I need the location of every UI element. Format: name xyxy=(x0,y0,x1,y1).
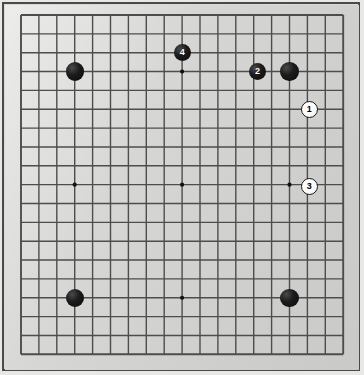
black-stone-move-4[interactable]: 4 xyxy=(174,44,191,61)
white-stone-move-1[interactable]: 1 xyxy=(301,101,318,118)
black-stone-q16[interactable] xyxy=(280,62,298,80)
stone-move-number: 2 xyxy=(255,67,260,76)
star-point xyxy=(180,296,184,300)
go-diagram-screen: 4213 xyxy=(0,0,364,375)
star-point xyxy=(287,183,291,187)
stone-move-number: 1 xyxy=(307,105,312,114)
star-point xyxy=(180,69,184,73)
black-stone-d4[interactable] xyxy=(66,289,84,307)
black-stone-d16[interactable] xyxy=(66,62,84,80)
stone-move-number: 3 xyxy=(307,182,312,191)
black-stone-move-2[interactable]: 2 xyxy=(249,63,266,80)
star-point xyxy=(180,183,184,187)
black-stone-q4[interactable] xyxy=(280,289,298,307)
white-stone-move-3[interactable]: 3 xyxy=(301,178,318,195)
star-point xyxy=(73,183,77,187)
stone-move-number: 4 xyxy=(180,48,185,57)
